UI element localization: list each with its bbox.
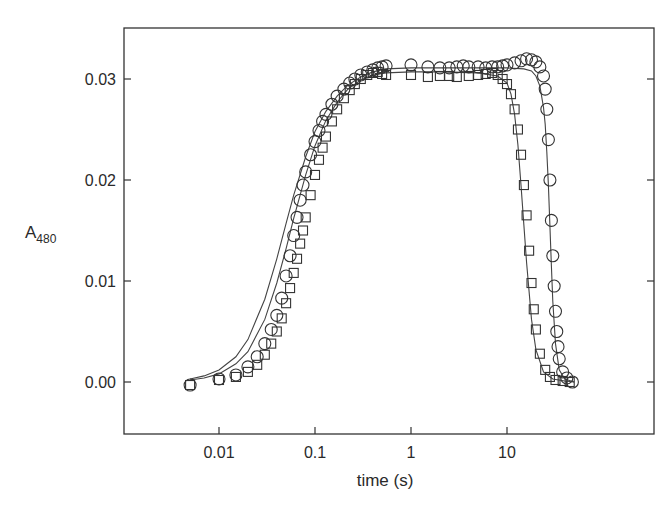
y-tick-label: 0.00: [85, 374, 116, 391]
square-marker: [282, 299, 291, 308]
square-marker: [260, 350, 269, 359]
square-marker: [215, 375, 224, 384]
circle-marker: [548, 280, 560, 292]
y-axis-title-subscript: 480: [36, 232, 56, 246]
circle-marker: [553, 353, 565, 365]
circle-marker: [544, 174, 556, 186]
x-tick-label: 0.1: [304, 444, 326, 461]
circle-marker: [539, 83, 551, 95]
square-marker: [423, 72, 432, 81]
circle-marker: [265, 323, 277, 335]
circle-marker: [552, 341, 564, 353]
square-marker: [293, 254, 302, 263]
square-marker: [318, 143, 327, 152]
square-marker: [286, 284, 295, 293]
y-tick-label: 0.02: [85, 172, 116, 189]
y-axis-ticks: 0.000.010.020.03: [85, 71, 654, 391]
circle-marker: [509, 57, 521, 69]
y-tick-label: 0.01: [85, 273, 116, 290]
circle-marker: [422, 61, 434, 73]
circle-marker: [547, 250, 559, 262]
x-tick-label: 10: [498, 444, 516, 461]
x-tick-label: 0.01: [203, 444, 234, 461]
circle-marker: [405, 59, 417, 71]
fit-squares-line: [190, 72, 574, 382]
x-tick-label: 1: [407, 444, 416, 461]
fit-circles-line: [190, 68, 574, 382]
square-marker: [306, 191, 315, 200]
circle-marker: [542, 134, 554, 146]
square-marker: [513, 125, 522, 134]
y-axis-title-main: A: [25, 223, 37, 242]
x-axis-ticks: 0.010.1110: [203, 427, 516, 461]
square-marker: [186, 381, 195, 390]
square-marker: [289, 268, 298, 277]
circle-marker: [280, 270, 292, 282]
y-tick-label: 0.03: [85, 71, 116, 88]
square-marker: [321, 132, 330, 141]
fit-curves: [190, 68, 574, 382]
x-axis-title: time (s): [357, 471, 414, 490]
circle-marker: [541, 103, 553, 115]
plot-frame: [124, 28, 654, 434]
circle-marker: [284, 250, 296, 262]
data-markers: [184, 53, 578, 391]
circle-marker: [551, 326, 563, 338]
circle-marker: [549, 305, 561, 317]
kinetics-chart: 0.010.1110 0.000.010.020.03 time (s) A48…: [0, 0, 672, 521]
y-axis-title: A480: [25, 223, 57, 246]
circle-marker: [545, 214, 557, 226]
